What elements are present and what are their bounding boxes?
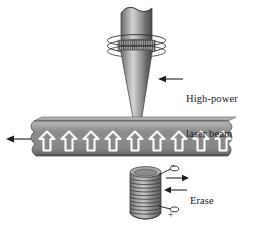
negative-terminal-sign: −: [170, 161, 176, 171]
erase-current-label: Erase current: [190, 172, 220, 227]
erase-coil-solenoid: [130, 167, 161, 219]
positive-terminal-sign: +: [168, 210, 174, 220]
laser-beam-label-line2: laser beam: [186, 128, 238, 140]
laser-beam-label-line1: High-power: [186, 93, 238, 105]
erase-leader-lines: [164, 175, 189, 193]
laser-erase-head-diagram: High-power laser beam Erase current − +: [0, 0, 261, 227]
laser-beam-label: High-power laser beam: [186, 70, 238, 162]
tape-motion-arrow: [6, 136, 31, 143]
laser-leader-line: [158, 76, 183, 82]
erase-current-label-line1: Erase: [190, 195, 220, 207]
